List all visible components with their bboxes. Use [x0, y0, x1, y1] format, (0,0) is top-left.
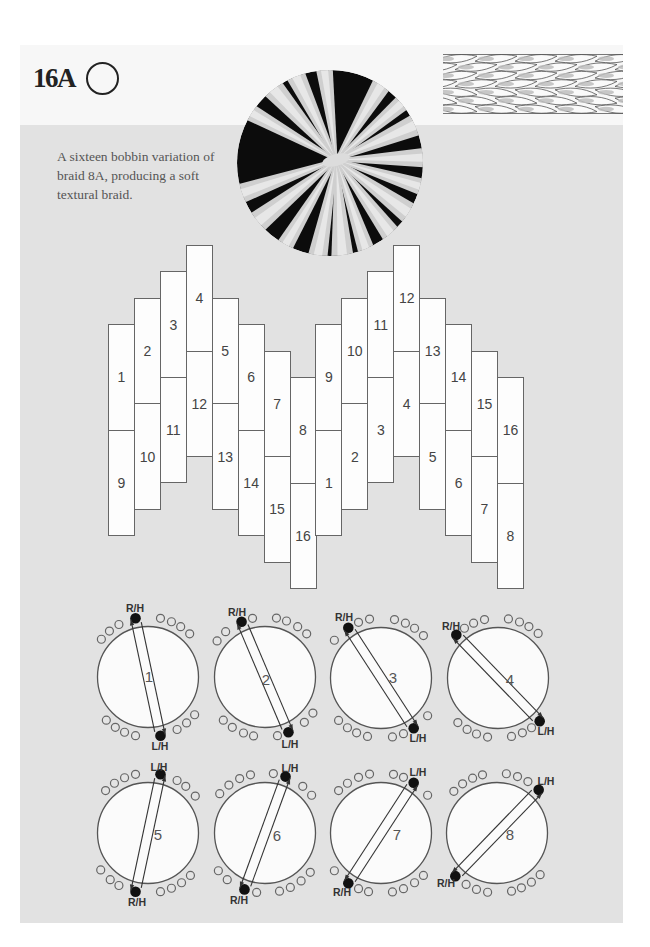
bobbin-slot-icon — [236, 775, 244, 783]
bobbin-slot-icon — [191, 711, 199, 719]
bobbin-slot-icon — [186, 630, 194, 638]
bobbin-slot-icon — [223, 876, 231, 884]
bobbin-slot-icon — [156, 614, 164, 622]
move-diagram: L/HR/H6 — [214, 762, 315, 906]
move-number: 4 — [506, 671, 514, 688]
bottom-hand-label: R/H — [230, 894, 248, 906]
bobbin-slot-icon — [97, 866, 105, 874]
bobbin-slot-icon — [250, 732, 258, 740]
bobbin-slot-icon — [308, 791, 316, 799]
bobbin-slot-icon — [276, 887, 284, 895]
bottom-hand-label: R/H — [128, 896, 146, 908]
top-hand-label: L/H — [282, 762, 299, 774]
bobbin-slot-icon — [219, 716, 227, 724]
bobbin-slot-icon — [399, 730, 407, 738]
move-diagram: R/HL/H2 — [213, 606, 317, 750]
bobbin-slot-icon — [470, 619, 478, 627]
bobbin-slot-icon — [173, 725, 181, 733]
bobbin-slot-icon — [424, 712, 432, 720]
bobbin-slot-icon — [365, 888, 373, 896]
bobbin-slot-icon — [528, 724, 536, 732]
bobbin-slot-icon — [364, 732, 372, 740]
bobbin-slot-icon — [527, 878, 535, 886]
bobbin-slot-icon — [102, 787, 110, 795]
move-number: 8 — [506, 826, 514, 843]
bobbin-slot-icon — [132, 770, 140, 778]
bobbin-slot-icon — [401, 619, 409, 627]
bobbin-slot-icon — [239, 729, 247, 737]
bobbin-slot-icon — [186, 871, 194, 879]
disk-outline — [331, 628, 432, 729]
bobbin-slot-icon — [353, 729, 361, 737]
bottom-hand-label: L/H — [538, 725, 555, 737]
bottom-hand-label: R/H — [333, 886, 351, 898]
bobbin-slot-icon — [460, 624, 468, 632]
move-number: 6 — [273, 827, 281, 844]
top-hand-label: L/H — [538, 775, 555, 787]
top-hand-label: L/H — [410, 766, 427, 778]
bobbin-slot-icon — [390, 616, 398, 624]
bobbin-slot-icon — [463, 725, 471, 733]
bobbin-slot-icon — [517, 884, 525, 892]
move-number: 3 — [389, 669, 397, 686]
move-number: 2 — [262, 671, 270, 688]
bobbin-slot-icon — [534, 629, 542, 637]
move-number: 7 — [393, 826, 401, 843]
bobbin-slot-icon — [399, 885, 407, 893]
bobbin-slot-icon — [183, 719, 191, 727]
top-hand-label: L/H — [151, 761, 168, 773]
bobbin-slot-icon — [272, 614, 280, 622]
bobbin-slot-icon — [399, 773, 407, 781]
bobbin-slot-icon — [484, 733, 492, 741]
bobbin-slot-icon — [516, 618, 524, 626]
bobbin-slot-icon — [306, 868, 314, 876]
top-hand-label: R/H — [126, 602, 144, 614]
bobbin-slot-icon — [191, 792, 199, 800]
bobbin-slot-icon — [335, 716, 343, 724]
bobbin-slot-icon — [214, 867, 222, 875]
move-diagram: L/HR/H5 — [97, 761, 200, 908]
bobbin-slot-icon — [419, 632, 427, 640]
move-diagram: L/HR/H7 — [330, 766, 431, 898]
bobbin-slot-icon — [294, 623, 302, 631]
top-hand-label: R/H — [335, 611, 353, 623]
bobbin-slot-icon — [111, 723, 119, 731]
bobbin-slot-icon — [249, 614, 257, 622]
top-hand-label: R/H — [228, 606, 246, 618]
bobbin-slot-icon — [246, 771, 254, 779]
bobbin-slot-icon — [518, 729, 526, 737]
bobbin-slot-icon — [273, 732, 281, 740]
bobbin-slot-icon — [300, 718, 308, 726]
bobbin-slot-icon — [299, 782, 307, 790]
bobbin-slot-icon — [366, 770, 374, 778]
bobbin-slot-icon — [366, 615, 374, 623]
bobbin-slot-icon — [97, 635, 105, 643]
bobbin-slot-icon — [419, 871, 427, 879]
bobbin-slot-icon — [484, 888, 492, 896]
bobbin-slot-icon — [178, 879, 186, 887]
bobbin-slot-icon — [469, 774, 477, 782]
bobbin-slot-icon — [462, 880, 470, 888]
bobbin-slot-icon — [389, 770, 397, 778]
bobbin-slot-icon — [454, 719, 462, 727]
bobbin-slot-icon — [121, 774, 129, 782]
bobbin-slot-icon — [388, 733, 396, 741]
move-number: 1 — [145, 668, 153, 685]
disk-outline — [215, 783, 316, 884]
bobbin-slot-icon — [132, 732, 140, 740]
disk-outline — [331, 783, 432, 884]
bobbin-slot-icon — [177, 623, 185, 631]
bobbin-slot-icon — [507, 732, 515, 740]
bobbin-slot-icon — [335, 787, 343, 795]
bobbin-slot-icon — [106, 876, 114, 884]
top-hand-label: R/H — [442, 620, 460, 632]
bobbin-slot-icon — [504, 615, 512, 623]
bobbin-slot-icon — [297, 877, 305, 885]
bobbin-slot-icon — [411, 879, 419, 887]
bobbin-slot-icon — [269, 770, 277, 778]
move-diagram: R/HL/H4 — [442, 615, 555, 741]
bobbin-slot-icon — [459, 780, 467, 788]
bobbin-slot-icon — [502, 770, 510, 778]
bobbin-slot-icon — [105, 627, 113, 635]
move-number: 5 — [154, 826, 162, 843]
